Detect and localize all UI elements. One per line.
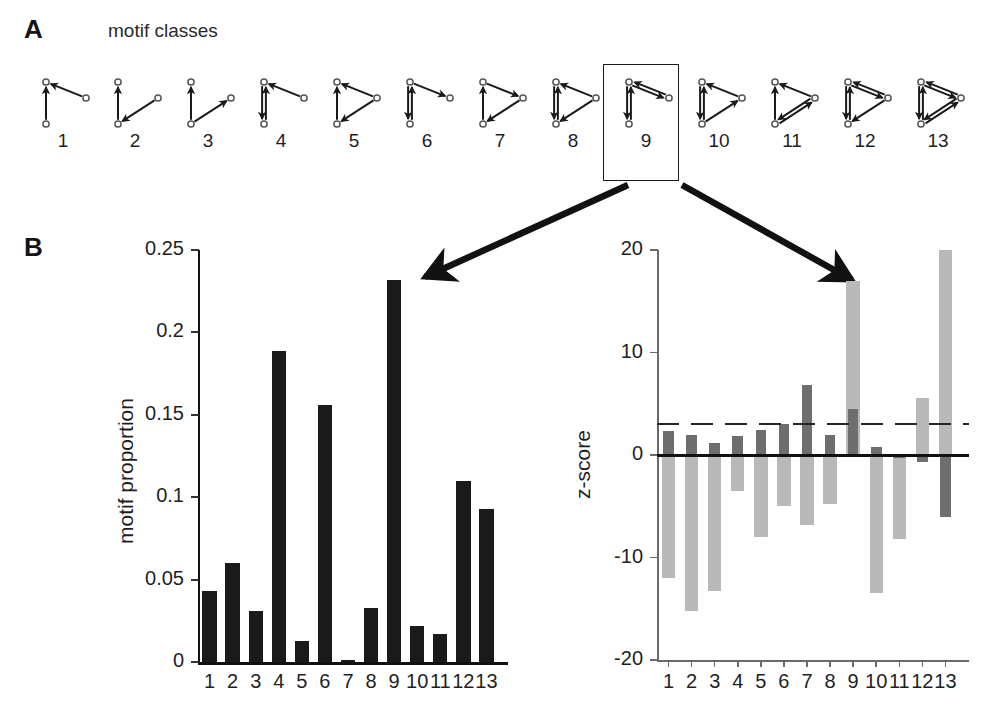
proportion-bar-10[interactable]	[410, 626, 424, 662]
motif-node	[83, 95, 89, 101]
motif-node	[918, 121, 924, 127]
y-tick-mark	[191, 579, 199, 581]
zscore-dark-bar-2[interactable]	[686, 435, 697, 456]
motif-class-7[interactable]: 7	[465, 72, 535, 180]
y-tick-mark	[650, 352, 658, 354]
zscore-dark-bar-13[interactable]	[940, 455, 951, 517]
zscore-light-bar-8[interactable]	[823, 455, 836, 504]
proportion-bar-13[interactable]	[479, 509, 493, 662]
motif-class-6[interactable]: 6	[392, 72, 462, 180]
proportion-bar-11[interactable]	[433, 634, 447, 662]
x-tick-mark-6	[783, 660, 785, 667]
y-tick-label: -20	[581, 647, 643, 670]
x-tick-label-13: 13	[470, 670, 502, 693]
motif-class-2[interactable]: 2	[100, 72, 170, 180]
motif-label-9: 9	[611, 130, 681, 152]
motif-node	[699, 121, 705, 127]
proportion-bar-9[interactable]	[387, 280, 401, 662]
y-tick-label: 20	[581, 237, 643, 260]
motif-node	[334, 79, 340, 85]
y-tick-label: 10	[581, 340, 643, 363]
zscore-light-bar-2[interactable]	[685, 455, 698, 611]
motif-glyph-4	[250, 72, 312, 132]
zero-line	[657, 454, 969, 458]
x-tick-mark-3	[714, 660, 716, 667]
zscore-dark-bar-6[interactable]	[779, 424, 790, 455]
zscore-light-bar-12[interactable]	[916, 398, 929, 455]
y-tick-mark	[191, 496, 199, 498]
motif-node	[261, 79, 267, 85]
motif-label-13: 13	[903, 130, 973, 152]
y-tick-mark	[191, 414, 199, 416]
zscore-dark-bar-8[interactable]	[825, 435, 836, 456]
proportion-bar-12[interactable]	[456, 481, 470, 662]
motif-class-9[interactable]: 9	[611, 72, 681, 180]
motif-node	[228, 95, 234, 101]
motif-class-3[interactable]: 3	[173, 72, 243, 180]
proportion-bar-3[interactable]	[249, 611, 263, 662]
zscore-light-bar-11[interactable]	[893, 455, 906, 539]
motif-class-1[interactable]: 1	[28, 72, 98, 180]
zscore-light-bar-4[interactable]	[731, 455, 744, 491]
x-tick-mark-4	[737, 660, 739, 667]
motif-class-8[interactable]: 8	[538, 72, 608, 180]
motif-glyph-10	[688, 72, 750, 132]
motif-node	[155, 95, 161, 101]
x-tick-mark-1	[668, 660, 670, 667]
motif-node	[520, 95, 526, 101]
motif-class-11[interactable]: 11	[757, 72, 827, 180]
motif-node	[480, 121, 486, 127]
motif-glyph-12	[834, 72, 896, 132]
zscore-dark-bar-1[interactable]	[663, 431, 674, 455]
motif-class-4[interactable]: 4	[246, 72, 316, 180]
proportion-bar-7[interactable]	[341, 660, 355, 662]
y-tick-mark	[191, 661, 199, 663]
motif-node	[43, 79, 49, 85]
motif-glyph-8	[542, 72, 604, 132]
y-tick-mark	[650, 557, 658, 559]
proportion-bar-4[interactable]	[272, 351, 286, 662]
x-tick-label-13: 13	[929, 670, 961, 693]
threshold-line	[657, 423, 969, 425]
motif-label-5: 5	[319, 130, 389, 152]
y-tick-label: 0.25	[120, 237, 184, 260]
motif-label-3: 3	[173, 130, 243, 152]
proportion-bar-6[interactable]	[318, 405, 332, 662]
zscore-light-bar-6[interactable]	[777, 455, 790, 506]
motif-glyph-3	[177, 72, 239, 132]
motif-class-10[interactable]: 10	[684, 72, 754, 180]
proportion-bar-2[interactable]	[225, 563, 239, 662]
zscore-light-bar-1[interactable]	[662, 455, 675, 578]
zscore-dark-bar-4[interactable]	[732, 436, 743, 455]
motif-class-13[interactable]: 13	[903, 72, 973, 180]
zscore-light-bar-7[interactable]	[800, 455, 813, 525]
threshold-dash-segment	[827, 423, 849, 425]
motif-node	[845, 121, 851, 127]
proportion-bar-8[interactable]	[364, 608, 378, 662]
motif-class-12[interactable]: 12	[830, 72, 900, 180]
proportion-bar-5[interactable]	[295, 641, 309, 662]
zscore-dark-bar-9[interactable]	[848, 409, 859, 455]
motif-label-12: 12	[830, 130, 900, 152]
panel-b-letter: B	[24, 232, 43, 263]
zscore-light-bar-5[interactable]	[754, 455, 767, 537]
motif-node	[772, 79, 778, 85]
y-axis-title: z-score	[571, 430, 595, 499]
motif-node	[553, 121, 559, 127]
motif-node	[593, 95, 599, 101]
motif-class-5[interactable]: 5	[319, 72, 389, 180]
motif-proportion-chart: 00.050.10.150.20.2512345678910111213moti…	[120, 228, 520, 708]
zscore-light-bar-3[interactable]	[708, 455, 721, 591]
threshold-dash-segment	[725, 423, 747, 425]
proportion-bar-1[interactable]	[202, 591, 216, 662]
motif-glyph-9	[615, 72, 677, 132]
zscore-light-bar-10[interactable]	[870, 455, 883, 593]
zscore-dark-bar-5[interactable]	[756, 430, 767, 455]
motif-node	[480, 79, 486, 85]
x-tick-mark-5	[760, 660, 762, 667]
motif-node	[739, 95, 745, 101]
zscore-dark-bar-7[interactable]	[802, 385, 813, 455]
motif-diagram-row: 12345678910111213	[28, 72, 968, 182]
motif-node	[885, 95, 891, 101]
motif-glyph-11	[761, 72, 823, 132]
